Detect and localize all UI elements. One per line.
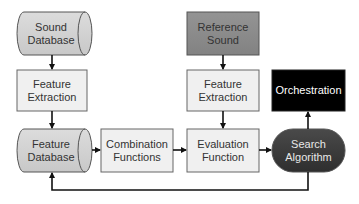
evaluation-function-node (187, 129, 259, 172)
reference-sound-node (187, 12, 259, 55)
flowchart-canvas (0, 0, 359, 204)
feature-database-node (17, 129, 92, 172)
sound-database-node (17, 12, 92, 55)
connector-arrows (52, 55, 308, 190)
combination-functions-node (101, 129, 173, 172)
arrow-feedback-search-to-feature-db (52, 172, 308, 190)
feature-extraction-right-node (187, 70, 259, 111)
search-algorithm-node (272, 129, 345, 172)
orchestration-node (272, 70, 345, 111)
feature-extraction-left-node (17, 70, 87, 111)
